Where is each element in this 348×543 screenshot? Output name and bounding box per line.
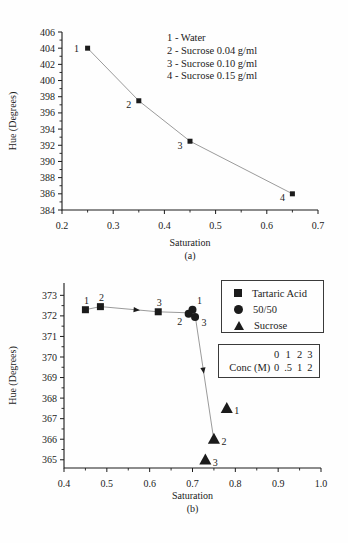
figure-page: 0.20.30.40.50.60.73843863883903923943963… bbox=[0, 0, 348, 543]
y-tick-label: 386 bbox=[40, 188, 55, 199]
y-tick-label: 367 bbox=[42, 413, 57, 424]
x-tick-label: 0.6 bbox=[261, 220, 274, 231]
sucrose-water-curve-marker bbox=[290, 191, 295, 196]
y-tick-label: 373 bbox=[42, 290, 57, 301]
direction-arrow-icon bbox=[133, 307, 140, 313]
y-tick-label: 392 bbox=[40, 140, 55, 151]
point-label: 1 bbox=[74, 43, 79, 54]
y-axis-title: Hue (Degrees) bbox=[7, 92, 19, 151]
chart-a-legend: 1 - Water 2 - Sucrose 0.04 g/ml 3 - Sucr… bbox=[167, 32, 257, 83]
y-tick-label: 371 bbox=[42, 331, 57, 342]
conc-value: 0 bbox=[271, 361, 281, 375]
tartaric-acid-marker bbox=[97, 303, 104, 310]
legend-line-water: 1 - Water bbox=[167, 32, 257, 45]
legend-label: Sucrose bbox=[254, 320, 287, 331]
sucrose-marker bbox=[208, 433, 220, 444]
x-tick-label: 0.8 bbox=[229, 478, 242, 489]
x-axis-title: Saturation bbox=[169, 237, 210, 248]
point-label: 3 bbox=[157, 297, 162, 308]
y-tick-label: 366 bbox=[42, 434, 57, 445]
legend-label: Tartaric Acid bbox=[252, 288, 307, 299]
point-label: 2 bbox=[99, 292, 104, 303]
concentration-table: 0 1 2 3 Conc (M) 0 .5 1 2 bbox=[227, 348, 315, 375]
legend-line-sucrose-004: 2 - Sucrose 0.04 g/ml bbox=[167, 45, 257, 58]
y-tick-label: 404 bbox=[40, 43, 55, 54]
x-tick-label: 1.0 bbox=[315, 478, 328, 489]
concentration-row: Conc (M) 0 .5 1 2 bbox=[227, 361, 315, 375]
connector-line bbox=[196, 318, 214, 435]
x-tick-label: 0.7 bbox=[312, 220, 325, 231]
fifty-fifty-marker bbox=[191, 313, 199, 321]
x-tick-label: 0.9 bbox=[272, 478, 285, 489]
legend-item-fifty-fifty: 50/50 bbox=[222, 301, 323, 317]
sucrose-marker bbox=[221, 402, 233, 413]
x-tick-label: 0.4 bbox=[58, 478, 71, 489]
y-tick-label: 398 bbox=[40, 91, 55, 102]
point-number: 0 bbox=[271, 348, 281, 362]
x-tick-label: 0.4 bbox=[158, 220, 171, 231]
y-tick-label: 394 bbox=[40, 124, 55, 135]
point-label: 1 bbox=[197, 295, 202, 306]
y-tick-label: 370 bbox=[42, 352, 57, 363]
conc-value: 2 bbox=[305, 361, 315, 375]
point-label: 2 bbox=[126, 99, 131, 110]
tartaric-acid-marker bbox=[155, 308, 162, 315]
tartaric-acid-marker bbox=[82, 306, 89, 313]
panel-label: (a) bbox=[184, 250, 195, 262]
point-number: 3 bbox=[305, 348, 315, 362]
sucrose-marker bbox=[199, 453, 211, 464]
y-tick-label: 400 bbox=[40, 75, 55, 86]
square-marker-icon bbox=[234, 289, 242, 297]
y-tick-label: 368 bbox=[42, 393, 57, 404]
chart-b-legend: Tartaric Acid 50/50 Sucrose bbox=[221, 280, 324, 333]
x-tick-label: 0.3 bbox=[107, 220, 120, 231]
legend-line-sucrose-010: 3 - Sucrose 0.10 g/ml bbox=[167, 58, 257, 71]
triangle-marker-icon bbox=[234, 321, 244, 330]
legend-label: 50/50 bbox=[253, 304, 277, 315]
x-tick-label: 0.2 bbox=[56, 220, 69, 231]
y-axis-title: Hue (Degrees) bbox=[7, 346, 19, 405]
y-tick-label: 384 bbox=[40, 205, 55, 216]
point-label: 2 bbox=[221, 436, 226, 447]
y-tick-label: 406 bbox=[40, 27, 55, 38]
x-axis-title: Saturation bbox=[172, 490, 213, 501]
x-tick-label: 0.6 bbox=[143, 478, 156, 489]
y-tick-label: 369 bbox=[42, 372, 57, 383]
point-label: 1 bbox=[84, 295, 89, 306]
y-tick-label: 390 bbox=[40, 156, 55, 167]
point-label: 3 bbox=[213, 457, 218, 468]
y-tick-label: 365 bbox=[42, 454, 57, 465]
point-number: 1 bbox=[282, 348, 295, 362]
conc-label: Conc (M) bbox=[227, 361, 272, 375]
x-tick-label: 0.7 bbox=[186, 478, 199, 489]
y-tick-label: 372 bbox=[42, 310, 57, 321]
legend-item-tartaric-acid: Tartaric Acid bbox=[222, 285, 323, 301]
legend-item-sucrose: Sucrose bbox=[222, 318, 323, 334]
panel-label: (b) bbox=[187, 503, 199, 515]
conc-value: 1 bbox=[295, 361, 305, 375]
y-tick-label: 396 bbox=[40, 107, 55, 118]
sucrose-water-curve-marker bbox=[85, 46, 90, 51]
point-label: 4 bbox=[280, 192, 285, 203]
legend-line-sucrose-015: 4 - Sucrose 0.15 g/ml bbox=[167, 70, 257, 83]
x-tick-label: 0.5 bbox=[209, 220, 222, 231]
point-label: 1 bbox=[234, 405, 239, 416]
concentration-table-box: 0 1 2 3 Conc (M) 0 .5 1 2 bbox=[218, 344, 320, 378]
point-label: 2 bbox=[177, 316, 182, 327]
empty-cell bbox=[227, 348, 272, 362]
point-number: 2 bbox=[295, 348, 305, 362]
point-number-row: 0 1 2 3 bbox=[227, 348, 315, 362]
point-label: 3 bbox=[202, 317, 207, 328]
circle-marker-icon bbox=[234, 305, 243, 314]
sucrose-water-curve-marker bbox=[136, 98, 141, 103]
point-label: 3 bbox=[178, 140, 183, 151]
sucrose-water-curve-marker bbox=[188, 139, 193, 144]
conc-value: .5 bbox=[282, 361, 295, 375]
y-tick-label: 388 bbox=[40, 172, 55, 183]
y-tick-label: 402 bbox=[40, 59, 55, 70]
x-tick-label: 0.5 bbox=[101, 478, 114, 489]
